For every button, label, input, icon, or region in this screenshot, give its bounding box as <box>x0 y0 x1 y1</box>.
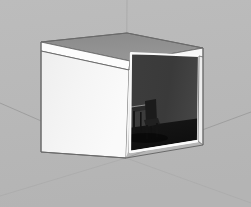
scene-canvas[interactable] <box>0 0 251 207</box>
box-front-face[interactable] <box>41 51 129 158</box>
table-leg-3 <box>140 112 142 132</box>
box-interior[interactable] <box>124 55 201 155</box>
table-leg-1 <box>133 111 135 132</box>
viewport-3d[interactable]: 3D Model Viewport Axonometric open-front… <box>0 0 251 207</box>
box-right-wall-edge[interactable] <box>198 56 203 145</box>
